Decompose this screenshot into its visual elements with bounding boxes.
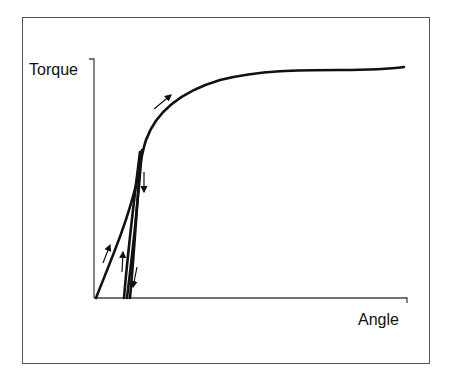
arrow-up-right-icon (103, 245, 110, 263)
x-axis (94, 298, 407, 303)
x-axis-label: Angle (358, 311, 399, 329)
arrow-up-icon (122, 252, 123, 272)
curves (96, 67, 404, 298)
initial-loading-curve (96, 67, 404, 298)
y-axis (89, 59, 94, 298)
y-axis-label: Torque (29, 61, 78, 79)
